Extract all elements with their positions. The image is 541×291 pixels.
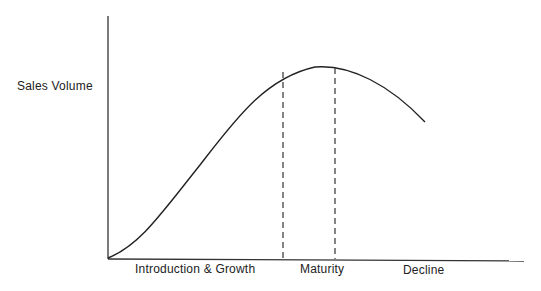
stage-label-maturity: Maturity	[300, 262, 344, 276]
sales-curve	[108, 67, 425, 258]
stage-label-decline: Decline	[403, 263, 444, 277]
x-axis	[108, 259, 524, 261]
stage-label-introduction-growth: Introduction & Growth	[135, 262, 255, 276]
product-life-cycle-diagram	[0, 0, 541, 291]
y-axis-label: Sales Volume	[17, 79, 93, 93]
